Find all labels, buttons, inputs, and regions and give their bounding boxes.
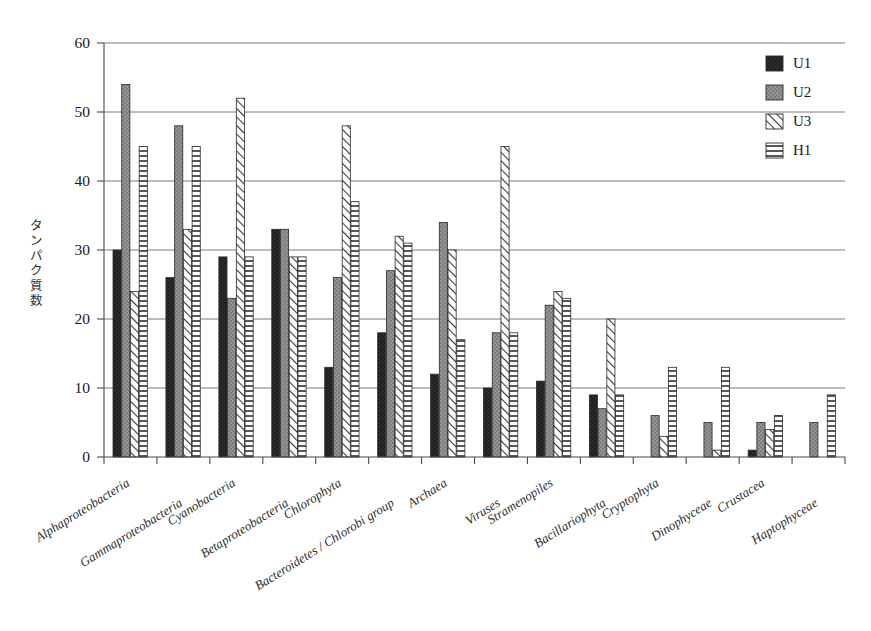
bar-H1 xyxy=(510,333,518,457)
bar-U3 xyxy=(660,436,668,457)
bar-U2 xyxy=(386,271,394,457)
bar-H1 xyxy=(457,340,465,457)
bar-U2 xyxy=(175,126,183,457)
bar-U1 xyxy=(113,250,121,457)
bar-U3 xyxy=(766,429,774,457)
y-axis-title-char: ン xyxy=(30,234,43,248)
bar-U1 xyxy=(748,450,756,457)
y-tick-label: 30 xyxy=(75,241,91,258)
bar-U1 xyxy=(378,333,386,457)
y-tick-label: 60 xyxy=(75,34,91,51)
bar-U2 xyxy=(228,298,236,457)
y-tick-label: 20 xyxy=(75,310,91,327)
legend-swatch-U3 xyxy=(766,114,783,129)
bar-U3 xyxy=(289,257,297,457)
bar-U1 xyxy=(589,395,597,457)
y-axis-title-char: 数 xyxy=(30,293,43,308)
bar-U3 xyxy=(342,126,350,457)
y-tick-label: 50 xyxy=(75,103,91,120)
bar-U3 xyxy=(554,291,562,457)
y-axis-title-char: ク xyxy=(30,264,43,278)
bar-U3 xyxy=(713,450,721,457)
bar-H1 xyxy=(721,367,729,457)
legend-label-U2: U2 xyxy=(793,84,811,100)
legend-swatch-U2 xyxy=(766,85,783,100)
bar-U2 xyxy=(704,423,712,458)
bar-U2 xyxy=(281,229,289,457)
legend-swatch-H1 xyxy=(766,143,783,158)
y-tick-label: 40 xyxy=(75,172,91,189)
bar-U3 xyxy=(501,147,509,458)
bar-U2 xyxy=(333,278,341,457)
bar-U1 xyxy=(536,381,544,457)
legend-swatch-U1 xyxy=(766,56,783,71)
bar-H1 xyxy=(351,202,359,457)
y-axis-title: タンパク質数 xyxy=(30,219,43,308)
bar-U1 xyxy=(431,374,439,457)
bar-U1 xyxy=(219,257,227,457)
bar-chart-figure: 0102030405060 AlphaproteobacteriaGammapr… xyxy=(0,0,871,631)
bar-U3 xyxy=(395,236,403,457)
y-tick-label: 0 xyxy=(82,448,90,465)
bar-H1 xyxy=(827,395,835,457)
bar-U2 xyxy=(439,222,447,457)
legend-label-U1: U1 xyxy=(793,55,811,71)
legend-label-U3: U3 xyxy=(793,113,811,129)
bar-H1 xyxy=(298,257,306,457)
bar-H1 xyxy=(245,257,253,457)
bar-H1 xyxy=(774,416,782,457)
bar-H1 xyxy=(563,298,571,457)
bar-U2 xyxy=(810,423,818,458)
y-axis-title-char: パ xyxy=(30,249,43,263)
y-tick-label: 10 xyxy=(75,379,91,396)
bar-U3 xyxy=(607,319,615,457)
bar-U3 xyxy=(183,229,191,457)
y-axis-title-char: タ xyxy=(30,219,43,233)
bar-U3 xyxy=(448,250,456,457)
bar-U2 xyxy=(651,416,659,457)
chart-canvas: 0102030405060 AlphaproteobacteriaGammapr… xyxy=(0,0,871,631)
bar-U3 xyxy=(236,98,244,457)
bar-H1 xyxy=(192,147,200,458)
bar-U2 xyxy=(492,333,500,457)
bar-U3 xyxy=(130,291,138,457)
bar-H1 xyxy=(139,147,147,458)
y-axis-title-char: 質 xyxy=(30,278,43,293)
bar-H1 xyxy=(404,243,412,457)
legend-label-H1: H1 xyxy=(793,142,811,158)
y-axis-title-group: タンパク質数 xyxy=(30,219,43,308)
bar-U2 xyxy=(545,305,553,457)
bar-U1 xyxy=(272,229,280,457)
bar-U2 xyxy=(598,409,606,457)
bar-U1 xyxy=(166,278,174,457)
bar-H1 xyxy=(616,395,624,457)
bar-U1 xyxy=(484,388,492,457)
bar-group xyxy=(272,229,306,457)
bar-U1 xyxy=(325,367,333,457)
bar-U2 xyxy=(757,423,765,458)
bar-U2 xyxy=(122,84,130,457)
bar-H1 xyxy=(668,367,676,457)
